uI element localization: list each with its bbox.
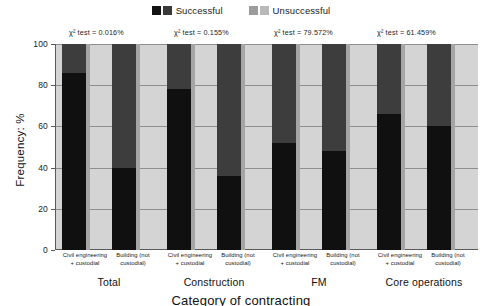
bar-stack xyxy=(112,44,136,250)
y-tick-label: 80 xyxy=(38,80,48,90)
chi-square-fm: χ² test = 79.572% xyxy=(274,28,333,37)
y-tick-label: 0 xyxy=(43,245,48,255)
bar-stack xyxy=(272,44,296,250)
legend-swatch-icon xyxy=(152,6,172,15)
bar-stack xyxy=(377,44,401,250)
x-axis-title: Category of contracting xyxy=(0,293,482,306)
plot-area xyxy=(55,44,478,250)
chi-square-construction: χ² test = 0.155% xyxy=(174,28,229,37)
bar-segment-unsuccessful xyxy=(427,44,451,126)
legend-item-successful[interactable]: Successful xyxy=(152,5,223,16)
y-tick-label: 20 xyxy=(38,204,48,214)
x-label-civil: Civil engineering + custodial xyxy=(271,252,319,267)
bar-core-operations-civil[interactable] xyxy=(377,44,401,250)
bar-core-operations-building[interactable] xyxy=(427,44,451,250)
bar-stack xyxy=(322,44,346,250)
bar-stack xyxy=(427,44,451,250)
bar-segment-unsuccessful xyxy=(217,44,241,176)
x-label-civil: Civil engineering + custodial xyxy=(61,252,109,267)
bar-total-building[interactable] xyxy=(112,44,136,250)
bar-total-civil[interactable] xyxy=(62,44,86,250)
y-tick-label: 100 xyxy=(33,39,48,49)
bar-segment-unsuccessful xyxy=(112,44,136,168)
bar-segment-successful xyxy=(272,143,296,250)
bar-segment-successful xyxy=(217,176,241,250)
legend-label: Unsuccessful xyxy=(273,5,331,16)
group-label-fm: FM xyxy=(311,276,326,288)
y-axis-title: Frequency: % xyxy=(14,70,26,230)
chart-legend: Successful Unsuccessful xyxy=(0,2,482,18)
x-axis-group-labels: Total Construction FM Core operations xyxy=(55,276,477,292)
bar-segment-successful xyxy=(167,89,191,250)
bar-segment-unsuccessful xyxy=(322,44,346,151)
y-axis: Frequency: % 0 20 40 60 80 100 xyxy=(0,44,55,250)
chart-root: Successful Unsuccessful χ² test = 0.016%… xyxy=(0,0,482,306)
x-label-building: Building (not custodial) xyxy=(216,252,260,267)
x-label-civil: Civil engineering + custodial xyxy=(166,252,214,267)
bar-segment-unsuccessful xyxy=(62,44,86,73)
bar-segment-successful xyxy=(377,114,401,250)
y-tick-label: 60 xyxy=(38,121,48,131)
legend-label: Successful xyxy=(176,5,223,16)
legend-swatch-icon xyxy=(249,6,269,15)
bar-segment-unsuccessful xyxy=(167,44,191,89)
x-label-building: Building (not custodial) xyxy=(111,252,155,267)
group-label-total: Total xyxy=(98,276,121,288)
chi-square-core: χ² test = 61.459% xyxy=(377,28,436,37)
legend-item-unsuccessful[interactable]: Unsuccessful xyxy=(249,5,331,16)
bar-segment-successful xyxy=(62,73,86,250)
bar-segment-successful xyxy=(112,168,136,250)
bar-segment-successful xyxy=(427,126,451,250)
y-tick-label: 40 xyxy=(38,163,48,173)
bar-fm-building[interactable] xyxy=(322,44,346,250)
bar-segment-unsuccessful xyxy=(272,44,296,143)
bar-stack xyxy=(217,44,241,250)
bar-segment-unsuccessful xyxy=(377,44,401,114)
bar-stack xyxy=(62,44,86,250)
chi-square-annotations: χ² test = 0.016% χ² test = 0.155% χ² tes… xyxy=(55,28,482,40)
bar-stack xyxy=(167,44,191,250)
bar-segment-successful xyxy=(322,151,346,250)
y-tick-mark xyxy=(51,250,55,251)
group-label-construction: Construction xyxy=(184,276,245,288)
bar-construction-civil[interactable] xyxy=(167,44,191,250)
x-label-building: Building (not custodial) xyxy=(426,252,470,267)
bar-fm-civil[interactable] xyxy=(272,44,296,250)
x-label-civil: Civil engineering + custodial xyxy=(376,252,424,267)
bar-construction-building[interactable] xyxy=(217,44,241,250)
x-axis-tick-labels: Civil engineering + custodial Building (… xyxy=(55,252,477,278)
x-label-building: Building (not custodial) xyxy=(321,252,365,267)
chi-square-total: χ² test = 0.016% xyxy=(69,28,124,37)
group-label-core: Core operations xyxy=(386,276,463,288)
